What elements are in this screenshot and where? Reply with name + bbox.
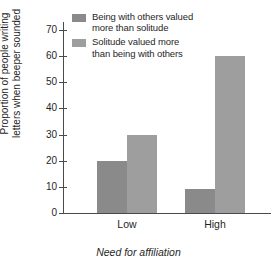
y-tick-mark [59,30,67,31]
y-tick-mark [59,187,67,188]
legend-swatch-series-1 [72,14,86,22]
y-tick-mark [59,56,67,57]
y-tick-label: 0 [51,208,57,218]
y-tick-label: 10 [46,182,57,192]
y-axis-title: Proportion of people writing letters whe… [0,0,22,169]
x-category-label-low: Low [117,218,136,230]
y-tick-mark [59,213,67,214]
x-axis-line [63,213,271,214]
y-tick-label: 50 [46,77,57,87]
bar-chart-figure: Being with others valued more than solit… [0,0,277,272]
x-category-label-high: High [204,218,226,230]
y-tick-mark [59,108,67,109]
bar-high-series-1 [185,189,215,213]
y-tick-mark [59,161,67,162]
plot-area: 010203040506070 LowHigh [63,22,271,214]
bar-low-series-2 [127,135,157,213]
y-tick-label: 40 [46,103,57,113]
y-tick-label: 60 [46,51,57,61]
y-tick-label: 30 [46,130,57,140]
y-tick-mark [59,135,67,136]
y-tick-label: 20 [46,156,57,166]
x-axis-title: Need for affiliation [0,246,277,258]
y-axis-line [63,22,64,214]
bar-high-series-2 [215,56,245,213]
y-tick-mark [59,82,67,83]
y-tick-label: 70 [46,25,57,35]
bar-low-series-1 [97,161,127,213]
